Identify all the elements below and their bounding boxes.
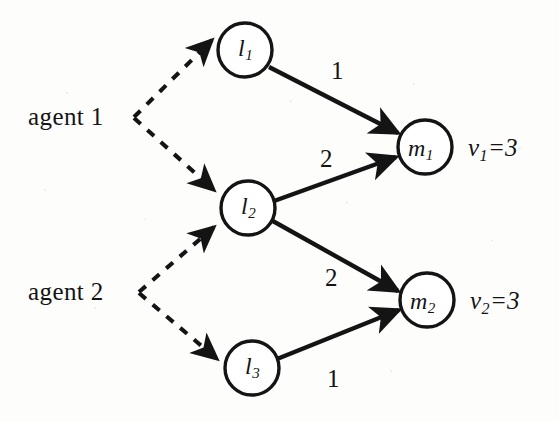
value-label-v2-var: v — [470, 287, 481, 314]
node-label-l3-base: l — [245, 353, 252, 379]
value-label-v2-subscript: 2 — [482, 300, 490, 317]
node-label-l3: l3 — [245, 354, 260, 381]
node-label-m1-subscript: 1 — [426, 147, 434, 163]
node-label-m2-base: m — [410, 288, 427, 314]
figure-canvas: agent 1 agent 2 l1 l2 l3 m1 m2 v1=3 v2=3… — [0, 0, 559, 422]
edge-agent1-to-l1 — [134, 40, 212, 117]
value-label-v2: v2=3 — [470, 288, 519, 317]
node-label-l1: l1 — [238, 36, 253, 63]
edge-weight-l2-m1: 2 — [320, 146, 333, 171]
edge-agent1-to-l2 — [134, 118, 214, 190]
node-label-l1-subscript: 1 — [245, 47, 253, 63]
node-label-l2-base: l — [241, 193, 248, 219]
edge-l3-to-m2 — [277, 310, 399, 359]
node-label-m1: m1 — [408, 136, 433, 163]
edge-weight-l1-m1: 1 — [331, 58, 344, 83]
value-label-v1-equals: = — [488, 134, 505, 161]
agent-label-2: agent 2 — [28, 279, 104, 304]
value-label-v2-equals: = — [490, 287, 507, 314]
capacity-edges-group — [269, 67, 399, 359]
node-label-l1-base: l — [238, 35, 245, 61]
node-label-m1-base: m — [408, 135, 425, 161]
node-label-l2-subscript: 2 — [248, 205, 256, 221]
node-label-l3-subscript: 3 — [252, 365, 260, 381]
agent-label-1: agent 1 — [28, 104, 104, 129]
edge-weight-l3-m2: 1 — [327, 366, 340, 391]
edge-weight-l2-m2: 2 — [325, 265, 338, 290]
value-label-v2-value: 3 — [507, 287, 520, 314]
edge-agent2-to-l3 — [139, 293, 217, 359]
diagram-svg — [0, 0, 559, 422]
edge-l2-to-m1 — [274, 157, 396, 201]
value-label-v1-value: 3 — [505, 134, 518, 161]
node-label-m2: m2 — [410, 289, 435, 316]
value-label-v1-var: v — [468, 134, 479, 161]
node-label-m2-subscript: 2 — [428, 300, 436, 316]
node-label-l2: l2 — [241, 194, 256, 221]
agent-edges-group — [134, 40, 217, 359]
value-label-v1-subscript: 1 — [480, 147, 488, 164]
edge-agent2-to-l2 — [139, 227, 214, 292]
value-label-v1: v1=3 — [468, 135, 517, 164]
